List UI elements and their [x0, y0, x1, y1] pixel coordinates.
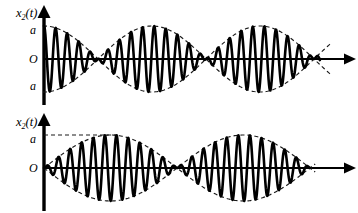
y-tick-label-a-bottom-top: a	[30, 79, 36, 93]
y-tick-label-origin-top: O	[29, 52, 38, 66]
panel-top-axis-label: x2(t)	[15, 6, 37, 22]
x-axis-arrowhead-top	[344, 54, 356, 65]
y-tick-label-origin-bottom: O	[29, 161, 38, 175]
y-axis-arrowhead-top	[38, 5, 51, 18]
figure-root: x2(t) a O a x2(t) a O	[0, 0, 358, 213]
y-tick-label-a-bottom-panel: a	[30, 132, 36, 146]
panel-bottom-axis-label: x2(t)	[15, 115, 37, 131]
panel-top-svg: x2(t) a O a	[0, 0, 358, 107]
panel-bottom-svg: x2(t) a O	[0, 106, 358, 213]
y-axis-arrowhead-bottom	[38, 113, 51, 126]
x-axis-arrowhead-bottom	[344, 163, 356, 174]
chart-panel-bottom: x2(t) a O	[0, 106, 358, 213]
chart-panel-top: x2(t) a O a	[0, 0, 358, 107]
waveform-bottom	[44, 135, 310, 201]
y-tick-label-a-top: a	[30, 23, 36, 37]
